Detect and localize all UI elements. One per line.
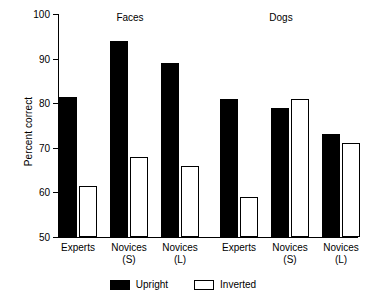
bar-inverted	[181, 166, 199, 237]
x-axis-tick-label: Novices(L)	[162, 242, 198, 266]
bar-upright	[220, 99, 238, 237]
bar-inverted	[79, 186, 97, 237]
x-label-line1: Experts	[222, 242, 256, 254]
x-axis-tick-label: Experts	[61, 242, 95, 254]
x-axis-line	[58, 237, 358, 238]
bar-upright	[271, 108, 289, 237]
x-axis-tick-label: Novices(L)	[323, 242, 359, 266]
bar-inverted	[342, 143, 360, 237]
x-axis-tick-label: Novices(S)	[111, 242, 147, 266]
legend-swatch-inverted-icon	[194, 280, 214, 290]
x-label-line2: (L)	[162, 254, 198, 266]
group-title-faces: Faces	[116, 12, 143, 23]
plot-area: 100 90 80 70 60 50 Faces Dogs	[58, 14, 358, 237]
x-label-line2: (S)	[272, 254, 308, 266]
x-label-line1: Experts	[61, 242, 95, 254]
x-axis-tick-label: Experts	[222, 242, 256, 254]
y-tick-label: 80	[39, 98, 50, 109]
legend-item-upright: Upright	[110, 279, 168, 290]
x-label-line2: (S)	[111, 254, 147, 266]
bar-chart: Percent correct 100 90 80 70 60 50 Faces…	[0, 0, 366, 305]
bar-upright	[161, 63, 179, 237]
bar-inverted	[291, 99, 309, 237]
y-tick-label: 100	[33, 9, 50, 20]
y-tick-label: 50	[39, 232, 50, 243]
bar-inverted	[240, 197, 258, 237]
y-axis-label: Percent correct	[23, 62, 34, 202]
x-label-line2: (L)	[323, 254, 359, 266]
x-label-line1: Novices	[162, 242, 198, 254]
group-title-dogs: Dogs	[269, 12, 292, 23]
legend-swatch-upright-icon	[110, 280, 130, 290]
bar-inverted	[130, 157, 148, 237]
x-axis-tick-label: Novices(S)	[272, 242, 308, 266]
x-label-line1: Novices	[272, 242, 308, 254]
legend-label-upright: Upright	[136, 279, 168, 290]
y-tick-label: 70	[39, 142, 50, 153]
bar-upright	[322, 134, 340, 237]
y-tick-label: 60	[39, 187, 50, 198]
bar-upright	[59, 97, 77, 237]
x-label-line1: Novices	[323, 242, 359, 254]
legend: Upright Inverted	[0, 279, 366, 290]
legend-label-inverted: Inverted	[220, 279, 256, 290]
y-tick-label: 90	[39, 53, 50, 64]
bar-upright	[110, 41, 128, 237]
x-label-line1: Novices	[111, 242, 147, 254]
legend-item-inverted: Inverted	[194, 279, 256, 290]
